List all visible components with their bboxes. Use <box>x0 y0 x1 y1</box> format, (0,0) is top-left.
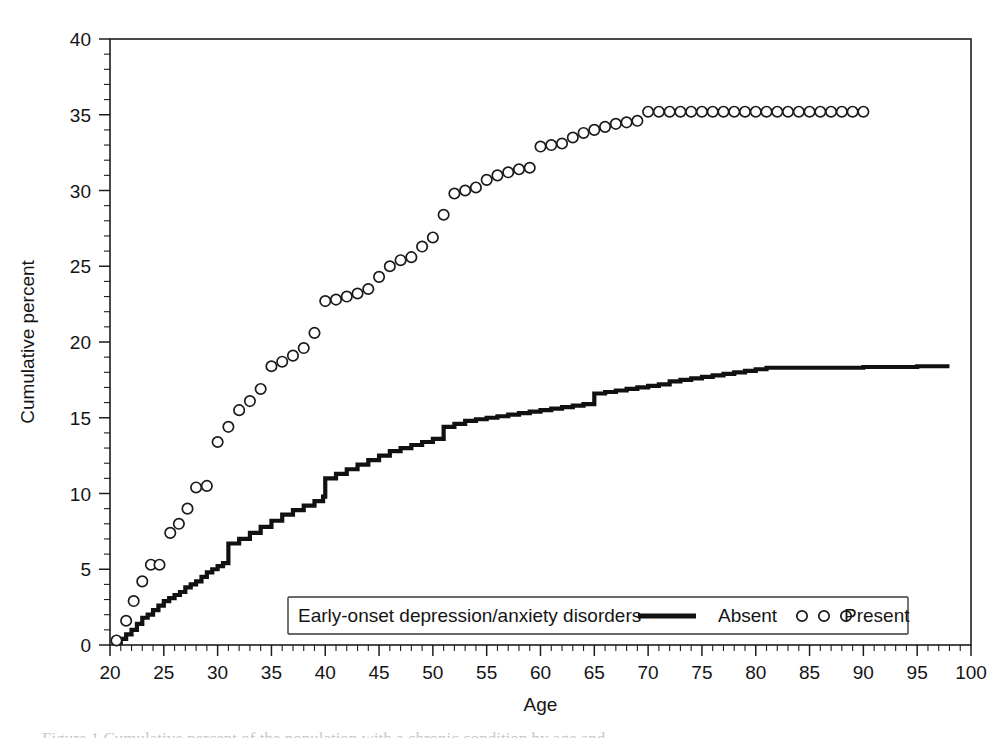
series-present-marker <box>589 125 599 135</box>
series-present-marker <box>277 356 287 366</box>
legend-swatch-present <box>797 611 807 621</box>
y-tick-label: 25 <box>70 256 91 277</box>
series-present-marker <box>481 175 491 185</box>
series-present-marker <box>621 117 631 127</box>
series-present-marker <box>697 107 707 117</box>
x-axis-title: Age <box>524 694 558 715</box>
series-present-marker <box>514 164 524 174</box>
series-present-marker <box>837 107 847 117</box>
series-present-marker <box>266 361 276 371</box>
y-tick-label: 40 <box>70 29 91 50</box>
legend-swatch-present <box>819 611 829 621</box>
x-tick-label: 75 <box>691 662 712 683</box>
series-present-marker <box>718 107 728 117</box>
cumulative-percent-chart: 2025303540455055606570758085909510005101… <box>0 0 1008 738</box>
series-present-marker <box>729 107 739 117</box>
series-present-marker <box>568 132 578 142</box>
series-present-marker <box>182 503 192 513</box>
x-tick-label: 80 <box>745 662 766 683</box>
series-present-marker <box>449 188 459 198</box>
series-present-marker <box>288 350 298 360</box>
x-tick-label: 50 <box>422 662 443 683</box>
plot-frame <box>110 39 971 645</box>
series-present-marker <box>342 291 352 301</box>
series-present-marker <box>202 481 212 491</box>
series-present-marker <box>471 182 481 192</box>
y-tick-label: 30 <box>70 181 91 202</box>
x-tick-label: 60 <box>530 662 551 683</box>
x-tick-label: 25 <box>153 662 174 683</box>
series-present-marker <box>815 107 825 117</box>
series-present-marker <box>664 107 674 117</box>
series-present-marker <box>546 140 556 150</box>
legend-title: Early-onset depression/anxiety disorders <box>298 605 641 626</box>
x-tick-label: 70 <box>638 662 659 683</box>
series-present-marker <box>535 141 545 151</box>
series-present-marker <box>299 343 309 353</box>
series-present-marker <box>255 384 265 394</box>
series-present-marker <box>632 116 642 126</box>
series-present-marker <box>740 107 750 117</box>
series-present-marker <box>121 616 131 626</box>
series-present-marker <box>686 107 696 117</box>
series-present-marker <box>503 167 513 177</box>
series-present-marker <box>858 107 868 117</box>
series-present-marker <box>223 422 233 432</box>
series-present-marker <box>395 255 405 265</box>
x-tick-label: 100 <box>955 662 987 683</box>
x-tick-label: 35 <box>261 662 282 683</box>
series-present-marker <box>309 328 319 338</box>
series-present-marker <box>363 284 373 294</box>
series-present-marker <box>654 107 664 117</box>
series-present-marker <box>794 107 804 117</box>
series-present-marker <box>675 107 685 117</box>
x-tick-label: 45 <box>368 662 389 683</box>
series-present-marker <box>708 107 718 117</box>
series-present-marker <box>352 288 362 298</box>
x-tick-label: 95 <box>907 662 928 683</box>
y-tick-label: 0 <box>80 635 91 656</box>
y-tick-label: 5 <box>80 559 91 580</box>
series-present-marker <box>385 261 395 271</box>
series-present-marker <box>320 296 330 306</box>
series-present-marker <box>761 107 771 117</box>
series-present-marker <box>417 241 427 251</box>
legend-label-absent: Absent <box>718 605 778 626</box>
series-present-marker <box>643 107 653 117</box>
y-tick-label: 20 <box>70 332 91 353</box>
series-present-marker <box>600 122 610 132</box>
x-tick-label: 85 <box>799 662 820 683</box>
series-present-marker <box>128 596 138 606</box>
series-present-marker <box>212 437 222 447</box>
series-present-marker <box>751 107 761 117</box>
series-present-marker <box>331 294 341 304</box>
y-tick-label: 10 <box>70 484 91 505</box>
y-axis-title: Cumulative percent <box>17 259 38 423</box>
series-present-marker <box>772 107 782 117</box>
series-present-marker <box>191 482 201 492</box>
series-present-marker <box>406 252 416 262</box>
series-present-marker <box>525 163 535 173</box>
series-present-marker <box>826 107 836 117</box>
y-tick-label: 15 <box>70 408 91 429</box>
series-present-marker <box>428 232 438 242</box>
series-present-marker <box>111 635 121 645</box>
series-present-marker <box>154 560 164 570</box>
series-present-marker <box>557 138 567 148</box>
x-tick-label: 90 <box>853 662 874 683</box>
series-present-marker <box>165 528 175 538</box>
series-present-marker <box>438 210 448 220</box>
x-tick-label: 40 <box>315 662 336 683</box>
series-present-marker <box>174 519 184 529</box>
x-tick-label: 30 <box>207 662 228 683</box>
figure-container: 2025303540455055606570758085909510005101… <box>0 0 1008 738</box>
figure-caption: Figure 1 Cumulative percent of the popul… <box>42 729 972 738</box>
x-tick-label: 55 <box>476 662 497 683</box>
series-present-marker <box>804 107 814 117</box>
series-present-marker <box>460 185 470 195</box>
series-present-marker <box>847 107 857 117</box>
series-present-marker <box>611 119 621 129</box>
series-present-marker <box>578 128 588 138</box>
y-tick-label: 35 <box>70 105 91 126</box>
legend-label-present: Present <box>844 605 910 626</box>
